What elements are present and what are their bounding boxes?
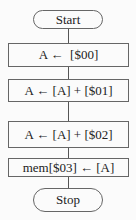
process-step-3: A ← [A] + [$02] bbox=[8, 121, 129, 148]
connector-step2-step3 bbox=[68, 101, 69, 121]
step-3-label: A ← [A] + [$02] bbox=[24, 127, 112, 143]
start-terminal: Start bbox=[33, 10, 103, 29]
connector-start-step1 bbox=[68, 28, 69, 43]
step-2-label: A ← [A] + [$01] bbox=[24, 83, 112, 99]
process-step-1: A ← [$00] bbox=[8, 43, 129, 67]
connector-step1-step2 bbox=[68, 67, 69, 79]
connector-step3-step4 bbox=[68, 147, 69, 158]
connector-step4-stop bbox=[68, 176, 69, 188]
process-step-2: A ← [A] + [$01] bbox=[8, 79, 129, 102]
start-label: Start bbox=[56, 12, 81, 28]
stop-terminal: Stop bbox=[33, 188, 103, 212]
stop-label: Stop bbox=[56, 192, 80, 208]
step-4-label: mem[$03] ← [A] bbox=[23, 160, 115, 176]
step-1-label: A ← [$00] bbox=[39, 47, 99, 63]
process-step-4: mem[$03] ← [A] bbox=[8, 158, 129, 177]
